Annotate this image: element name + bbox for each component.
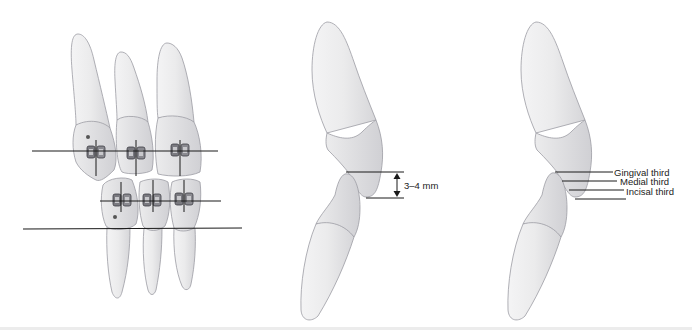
crown-thirds-panel: Gingival third Medial third Incisal thir…	[508, 22, 674, 320]
lower-incisor-profile-thirds	[508, 173, 567, 320]
bracket-positioning-panel	[23, 34, 242, 298]
upper-incisor-profile-thirds	[521, 22, 592, 197]
upper-tooth-left	[71, 34, 116, 181]
lower-incisor-profile	[301, 174, 360, 320]
upper-incisor-profile	[312, 22, 383, 197]
dental-figure: 3–4 mm Gingival third Medial third Incis…	[0, 0, 692, 335]
incisal-third-label: Incisal third	[626, 186, 674, 197]
overbite-label: 3–4 mm	[404, 180, 438, 191]
bottom-divider	[0, 327, 692, 330]
overbite-measurement-panel: 3–4 mm	[301, 22, 439, 320]
